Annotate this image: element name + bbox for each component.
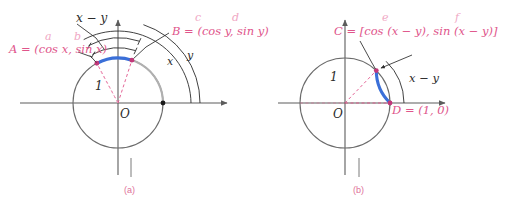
- panel-a-point-B-label: B = (cos y, sin y): [172, 26, 269, 38]
- panel-a-point-unit-x: [161, 101, 166, 106]
- panel-a-circle-sweep-arc: [97, 58, 163, 103]
- panel-b-angle-label: x − y: [409, 73, 439, 85]
- panel-b-point-D-label: D = (1, 0): [392, 105, 449, 117]
- panel-b-radius-label: 1: [330, 71, 338, 83]
- panel-a-radius-label: 1: [95, 80, 103, 92]
- panel-b-marker-f: f: [455, 12, 459, 23]
- panel-b-origin-label: O: [333, 108, 343, 120]
- panel-a-bracket-xminusy-tick-right: [134, 48, 137, 55]
- panel-a-radius-to-B: [118, 60, 132, 103]
- panel-a-angle-x-label: x: [167, 56, 173, 67]
- panel-a-caption: (a): [124, 186, 135, 195]
- panel-a-origin-label: O: [120, 108, 130, 120]
- panel-b-point-C: [374, 68, 379, 73]
- panel-a-marker-b: b: [74, 31, 81, 42]
- figure-container: x − y a b A = (cos x, sin x) c d B = (co…: [0, 0, 517, 212]
- panel-a-marker-a: a: [45, 31, 52, 42]
- panel-a-point-A-label: A = (cos x, sin x): [9, 44, 107, 56]
- panel-a-arc-AB-highlight: [97, 58, 132, 63]
- panel-a-leader-B: [134, 33, 169, 59]
- panel-b-leader-C-arrow: [381, 55, 412, 68]
- panel-a-point-B: [130, 58, 135, 63]
- panel-b-arc-CD-highlight: [376, 71, 390, 103]
- panel-b-marker-e: e: [382, 12, 389, 23]
- panel-b-radius-to-C: [345, 71, 376, 103]
- panel-b-graphics: [278, 20, 445, 177]
- panel-a-angle-y-label: y: [187, 50, 193, 61]
- panel-a-bracket-secondary-tick-right: [138, 38, 141, 45]
- panel-a-marker-c: c: [195, 12, 201, 23]
- panel-a-marker-d: d: [232, 12, 239, 23]
- panel-a-arc-difference-label: x − y: [76, 12, 107, 24]
- panel-b-point-C-label: C = [cos (x − y), sin (x − y)]: [334, 26, 497, 38]
- panel-a-radius-one-line: [100, 70, 118, 103]
- panel-b-caption: (b): [353, 186, 364, 195]
- panel-b-angle-arc-xminusy: [386, 61, 404, 103]
